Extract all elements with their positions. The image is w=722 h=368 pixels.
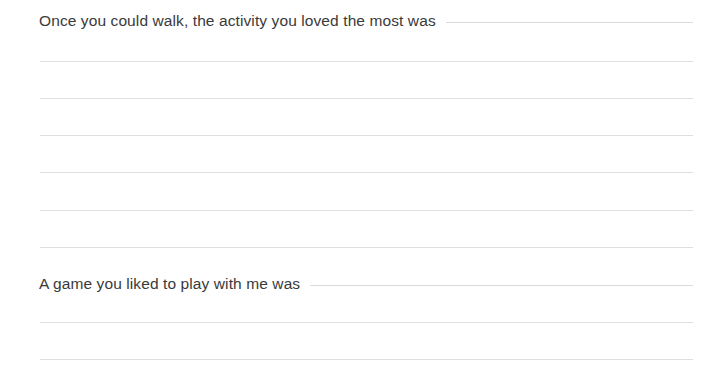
prompt-label-game-you-liked: A game you liked to play with me was (39, 274, 310, 294)
writing-line[interactable] (40, 359, 693, 360)
writing-line[interactable] (40, 98, 693, 99)
writing-line[interactable] (40, 210, 693, 211)
prompt-row: Once you could walk, the activity you lo… (39, 11, 693, 31)
writing-line[interactable] (40, 135, 693, 136)
prompt-row: A game you liked to play with me was (39, 274, 693, 294)
writing-line[interactable] (40, 172, 693, 173)
prompt-answer-rule[interactable] (310, 285, 693, 286)
writing-line[interactable] (40, 61, 693, 62)
prompt-label-activity-you-loved: Once you could walk, the activity you lo… (39, 11, 446, 31)
writing-line[interactable] (40, 322, 693, 323)
writing-line[interactable] (40, 247, 693, 248)
journal-page: Once you could walk, the activity you lo… (0, 0, 722, 368)
prompt-answer-rule[interactable] (446, 22, 693, 23)
